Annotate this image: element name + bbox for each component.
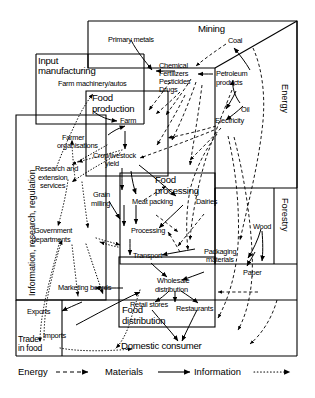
legend-lines-layer xyxy=(0,0,315,398)
diagram-canvas: Mining Input manufacturing Food producti… xyxy=(0,0,315,398)
